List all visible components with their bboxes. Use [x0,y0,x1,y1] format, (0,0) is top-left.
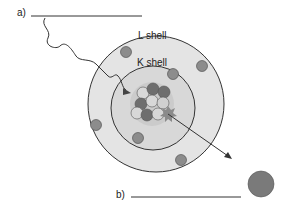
ejection-arrowhead-icon [224,152,232,159]
label-a: a) [17,7,26,18]
label-k-shell: K shell [137,57,167,68]
label-l-shell: L shell [138,30,167,41]
ejected-electron [248,171,274,197]
label-b: b) [116,189,125,200]
